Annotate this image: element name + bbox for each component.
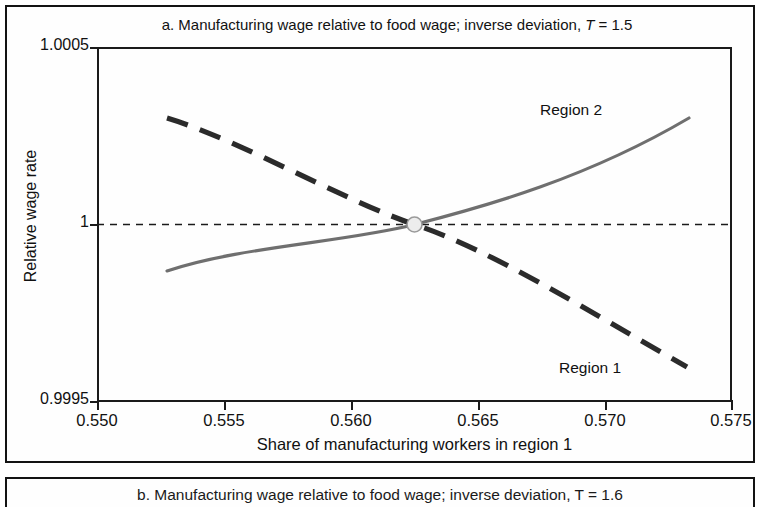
- x-tick-label-0.560: 0.560: [311, 411, 391, 430]
- y-axis-title: Relative wage rate: [22, 96, 40, 336]
- x-tick-label-0.575: 0.575: [691, 411, 763, 430]
- panel-a-title: a. Manufacturing wage relative to food w…: [97, 16, 697, 34]
- x-tick-label-0.555: 0.555: [184, 411, 264, 430]
- panel-b: b. Manufacturing wage relative to food w…: [5, 477, 755, 507]
- y-tick-label-1: 1: [80, 213, 89, 231]
- panel-b-title: b. Manufacturing wage relative to food w…: [7, 486, 753, 504]
- y-tick-label-1.0005: 1.0005: [40, 36, 89, 54]
- panel-a: a. Manufacturing wage relative to food w…: [5, 5, 755, 463]
- x-axis-title: Share of manufacturing workers in region…: [97, 435, 732, 454]
- x-tick-label-0.550: 0.550: [57, 411, 137, 430]
- panel-a-title-suffix: = 1.5: [594, 16, 632, 33]
- series-line-region1: [167, 118, 687, 367]
- series-label-region1: Region 1: [559, 359, 621, 377]
- x-tick-label-0.570: 0.570: [565, 411, 645, 430]
- intersection-marker: [407, 217, 422, 232]
- panel-a-title-prefix: a. Manufacturing wage relative to food w…: [162, 16, 586, 33]
- y-tick-label-0.9995: 0.9995: [40, 390, 89, 408]
- series-line-region2: [167, 118, 689, 271]
- x-tick-mark-0.565: [478, 400, 480, 410]
- x-tick-mark-0.560: [351, 400, 353, 410]
- series-label-region2: Region 2: [540, 101, 602, 119]
- x-tick-mark-0.550: [97, 400, 99, 410]
- x-tick-mark-0.570: [605, 400, 607, 410]
- x-tick-mark-0.555: [224, 400, 226, 410]
- x-tick-label-0.565: 0.565: [438, 411, 518, 430]
- plot-canvas: [97, 47, 732, 402]
- x-tick-mark-0.575: [731, 400, 733, 410]
